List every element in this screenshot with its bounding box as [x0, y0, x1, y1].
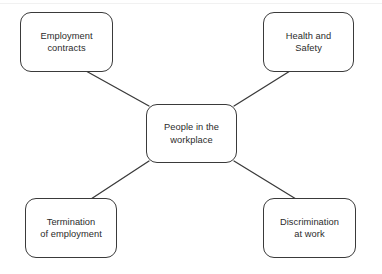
node-label: Employment contracts [40, 30, 92, 54]
edge-termination-of-employment-to-center [91, 161, 149, 199]
edge-health-and-safety-to-center [234, 71, 290, 106]
node-discrimination-at-work[interactable]: Discrimination at work [263, 198, 356, 258]
node-label: Discrimination at work [280, 216, 339, 240]
node-employment-contracts[interactable]: Employment contracts [20, 12, 113, 72]
node-label: People in the workplace [164, 121, 219, 145]
top-divider-line [0, 3, 382, 4]
node-center-people-in-the-workplace[interactable]: People in the workplace [146, 104, 237, 163]
node-termination-of-employment[interactable]: Termination of employment [25, 198, 117, 258]
node-label: Health and Safety [286, 30, 331, 54]
node-label: Termination of employment [40, 216, 102, 240]
diagram-canvas: Employment contracts Health and Safety P… [0, 0, 382, 274]
edge-discrimination-at-work-to-center [234, 161, 296, 199]
node-health-and-safety[interactable]: Health and Safety [263, 12, 354, 72]
edge-employment-contracts-to-center [86, 71, 149, 106]
